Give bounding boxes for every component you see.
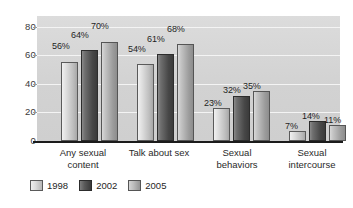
legend-label-2005: 2005 bbox=[145, 180, 166, 191]
ytick-40: 40 bbox=[0, 84, 36, 85]
bar-value-2002-talk-about-sex: 61% bbox=[147, 34, 165, 44]
legend-label-1998: 1998 bbox=[47, 180, 68, 191]
bar-value-1998-sexual-intercourse: 7% bbox=[285, 121, 298, 131]
bar-chart: 56% 64% 70% 54% 61% 68% 23% 32% 35% 7% 1… bbox=[0, 0, 353, 208]
bar-2005-sexual-intercourse bbox=[329, 125, 346, 141]
bar-1998-any-sexual-content bbox=[61, 62, 78, 142]
gridline-80 bbox=[37, 27, 340, 28]
bar-value-2005-sexual-behaviors: 35% bbox=[243, 81, 261, 91]
bar-2002-any-sexual-content bbox=[81, 50, 98, 141]
bar-value-2002-sexual-intercourse: 14% bbox=[302, 111, 320, 121]
legend-item-1998: 1998 bbox=[30, 180, 68, 191]
legend: 1998 2002 2005 bbox=[30, 180, 177, 191]
ytick-mark-40 bbox=[33, 84, 37, 85]
legend-item-2002: 2002 bbox=[79, 180, 117, 191]
bar-value-1998-talk-about-sex: 54% bbox=[128, 44, 146, 54]
legend-swatch-2005-icon bbox=[128, 180, 141, 191]
bar-value-2005-sexual-intercourse: 11% bbox=[324, 115, 341, 125]
bar-2002-talk-about-sex bbox=[157, 54, 174, 141]
ytick-label-80: 80 bbox=[2, 21, 36, 32]
bar-2005-sexual-behaviors bbox=[253, 91, 270, 141]
ytick-mark-60 bbox=[33, 55, 37, 56]
bar-1998-sexual-behaviors bbox=[213, 108, 230, 141]
bar-value-1998-any-sexual-content: 56% bbox=[52, 41, 70, 51]
bar-2005-any-sexual-content bbox=[101, 42, 118, 141]
ytick-20: 20 bbox=[0, 112, 36, 113]
legend-label-2002: 2002 bbox=[96, 180, 117, 191]
bar-value-2002-any-sexual-content: 64% bbox=[71, 30, 89, 40]
category-label-talk-about-sex: Talk about sex bbox=[112, 147, 206, 159]
ytick-label-0: 0 bbox=[2, 135, 36, 146]
ytick-60: 60 bbox=[0, 55, 36, 56]
bar-2002-sexual-behaviors bbox=[233, 96, 250, 142]
ytick-80: 80 bbox=[0, 27, 36, 28]
bar-1998-talk-about-sex bbox=[137, 64, 154, 141]
legend-swatch-1998-icon bbox=[30, 180, 43, 191]
ytick-label-20: 20 bbox=[2, 106, 36, 117]
ytick-mark-80 bbox=[33, 27, 37, 28]
bar-value-2005-any-sexual-content: 70% bbox=[91, 21, 109, 31]
bar-1998-sexual-intercourse bbox=[289, 131, 306, 141]
ytick-mark-20 bbox=[33, 112, 37, 113]
bar-value-2005-talk-about-sex: 68% bbox=[167, 24, 185, 34]
bar-2005-talk-about-sex bbox=[177, 44, 194, 141]
ytick-0: 0 bbox=[0, 141, 36, 142]
ytick-label-60: 60 bbox=[2, 49, 36, 60]
legend-item-2005: 2005 bbox=[128, 180, 166, 191]
category-label-sexual-intercourse: Sexual intercourse bbox=[267, 147, 353, 171]
bar-value-2002-sexual-behaviors: 32% bbox=[223, 85, 241, 95]
x-axis-line bbox=[33, 141, 343, 143]
ytick-label-40: 40 bbox=[2, 78, 36, 89]
legend-swatch-2002-icon bbox=[79, 180, 92, 191]
bar-value-1998-sexual-behaviors: 23% bbox=[204, 98, 222, 108]
